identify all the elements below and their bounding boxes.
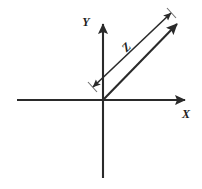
y-axis-label: Y [82, 15, 91, 29]
vector-diagram-figure: Y X Z [0, 0, 202, 189]
x-axis-label: X [181, 107, 191, 121]
resultant-vector-arrow [103, 24, 177, 100]
diagram-canvas: Y X Z [0, 0, 202, 189]
z-dimension-label: Z [118, 39, 134, 55]
